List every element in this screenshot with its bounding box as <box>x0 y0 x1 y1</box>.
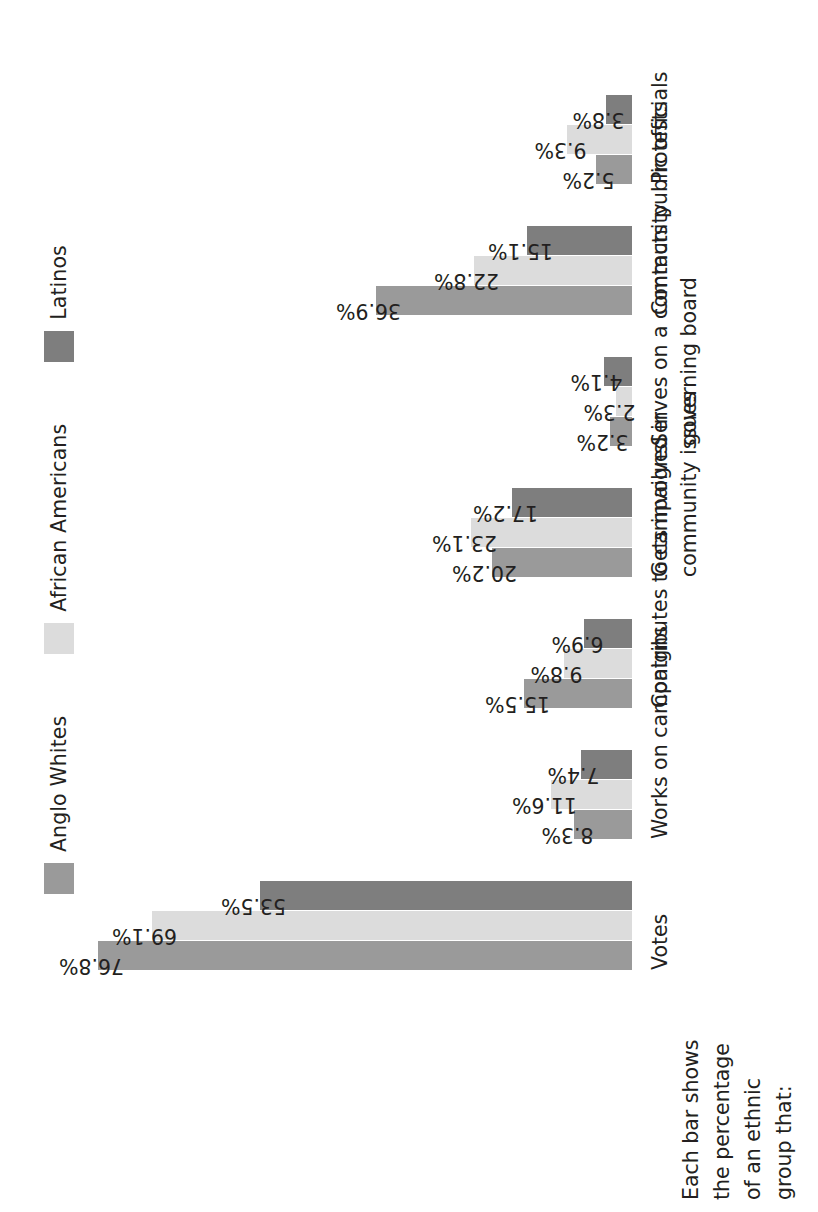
axis-caption-line: of an ethnic <box>738 1000 769 1200</box>
category-label: Contributes to campaigns <box>632 619 675 708</box>
bar-column: 17.2% <box>76 488 632 517</box>
legend-swatch-icon <box>44 863 74 894</box>
bar-column: 53.5% <box>76 881 632 910</box>
category-label-line: community issues <box>675 488 704 577</box>
bar-column: 20.2% <box>76 548 632 577</box>
category-label-line: Gets involved in <box>646 488 675 577</box>
bar-value-label: 76.8% <box>59 956 124 977</box>
bar-column: 7.4% <box>76 750 632 779</box>
category-label-line: Protests <box>646 95 675 184</box>
bar[interactable]: 3.8% <box>606 95 632 124</box>
bar-value-label: 23.1% <box>432 533 497 554</box>
bar-value-label: 5.2% <box>563 170 615 191</box>
bar-value-label: 2.3% <box>583 402 635 423</box>
bar[interactable]: 20.2% <box>492 548 632 577</box>
bar-group: 3.2%2.3%4.1%Serves on a communitygoverni… <box>76 357 632 446</box>
bar-group: 15.5%9.8%6.9%Contributes to campaigns <box>76 619 632 708</box>
category-label: Gets involved incommunity issues <box>632 488 704 577</box>
bar[interactable]: 5.2% <box>596 155 632 184</box>
bar-column: 36.9% <box>76 286 632 315</box>
bar[interactable]: 36.9% <box>376 286 632 315</box>
chart-legend: Anglo WhitesAfrican AmericansLatinos <box>42 245 76 894</box>
bar-column: 15.1% <box>76 226 632 255</box>
bar[interactable]: 53.5% <box>260 881 632 910</box>
bar[interactable]: 76.8% <box>98 941 632 970</box>
legend-label: African Americans <box>47 424 71 612</box>
bar-group: 8.3%11.6%7.4%Works on campaigns <box>76 750 632 839</box>
category-label: Works on campaigns <box>632 750 675 839</box>
bar-value-label: 15.5% <box>485 694 550 715</box>
bar-group: 36.9%22.8%15.1%Contacts public officials <box>76 226 632 315</box>
axis-caption-line: Each bar shows <box>676 1000 707 1200</box>
bar-value-label: 9.3% <box>534 140 586 161</box>
bar-column: 69.1% <box>76 911 632 940</box>
bar-column: 4.1% <box>76 357 632 386</box>
legend-swatch-icon <box>44 331 74 362</box>
category-label: Protests <box>632 95 675 184</box>
bar-group: 20.2%23.1%17.2%Gets involved incommunity… <box>76 488 632 577</box>
bar-value-label: 69.1% <box>112 926 177 947</box>
legend-item-latinos[interactable]: Latinos <box>44 245 74 362</box>
bar-value-label: 4.1% <box>570 372 622 393</box>
bar-group: 76.8%69.1%53.5%Votes <box>76 881 632 970</box>
bar-column: 6.9% <box>76 619 632 648</box>
bar[interactable]: 15.1% <box>527 226 632 255</box>
bar-value-label: 15.1% <box>488 241 553 262</box>
bar-column: 9.8% <box>76 649 632 678</box>
bar[interactable]: 4.1% <box>604 357 632 386</box>
bar-column: 3.2% <box>76 417 632 446</box>
legend-item-african-americans[interactable]: African Americans <box>44 424 74 654</box>
plot-area: 76.8%69.1%53.5%Votes8.3%11.6%7.4%Works o… <box>76 20 632 980</box>
category-label: Contacts public officials <box>632 226 675 315</box>
legend-item-anglo-whites[interactable]: Anglo Whites <box>44 716 74 894</box>
bar[interactable]: 8.3% <box>574 810 632 839</box>
axis-caption-line: group that: <box>769 1000 800 1200</box>
axis-caption: Each bar showsthe percentageof an ethnic… <box>676 1000 800 1200</box>
bar-column: 9.3% <box>76 125 632 154</box>
bar-column: 23.1% <box>76 518 632 547</box>
bar-value-label: 36.9% <box>336 301 401 322</box>
bar[interactable]: 7.4% <box>581 750 632 779</box>
bar-value-label: 20.2% <box>452 563 517 584</box>
bar-value-label: 7.4% <box>548 765 600 786</box>
bar-value-label: 9.8% <box>531 664 583 685</box>
bar-groups: 76.8%69.1%53.5%Votes8.3%11.6%7.4%Works o… <box>76 20 632 980</box>
bar-value-label: 22.8% <box>434 271 499 292</box>
bar-value-label: 3.8% <box>573 110 625 131</box>
category-label-line: Works on campaigns <box>646 750 675 839</box>
legend-swatch-icon <box>44 623 74 654</box>
bar[interactable]: 17.2% <box>512 488 632 517</box>
category-label-line: governing board <box>675 357 704 446</box>
category-label-line: Contributes to campaigns <box>646 619 675 708</box>
bar[interactable]: 6.9% <box>584 619 632 648</box>
bar-column: 3.8% <box>76 95 632 124</box>
bar-group: 5.2%9.3%3.8%Protests <box>76 95 632 184</box>
legend-label: Latinos <box>47 245 71 320</box>
bar-column: 2.3% <box>76 387 632 416</box>
bar-value-label: 11.6% <box>512 795 577 816</box>
category-label: Serves on a communitygoverning board <box>632 357 704 446</box>
category-label-line: Contacts public officials <box>646 226 675 315</box>
category-label-line: Votes <box>646 881 675 970</box>
bar-value-label: 6.9% <box>551 634 603 655</box>
rotated-figure-container: Anglo WhitesAfrican AmericansLatinos Eac… <box>0 0 818 1212</box>
bar-value-label: 3.2% <box>577 432 629 453</box>
legend-label: Anglo Whites <box>47 716 71 852</box>
axis-caption-line: the percentage <box>707 1000 738 1200</box>
category-label-line: Serves on a community <box>646 357 675 446</box>
category-label: Votes <box>632 881 675 970</box>
bar-chart: Anglo WhitesAfrican AmericansLatinos Eac… <box>0 0 818 1212</box>
bar-value-label: 53.5% <box>221 896 286 917</box>
bar-value-label: 17.2% <box>473 503 538 524</box>
bar-value-label: 8.3% <box>541 825 593 846</box>
